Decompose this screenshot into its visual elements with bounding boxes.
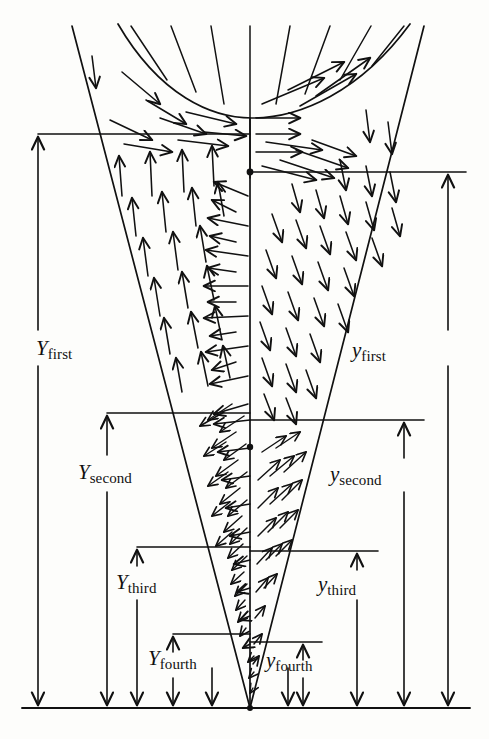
label-Y-second: Ysecond [78, 460, 132, 485]
field-lower-left [200, 404, 247, 636]
dimension-arrows-left [38, 137, 173, 705]
label-y-fourth-var: y [266, 648, 275, 672]
label-Y-third-var: Y [116, 570, 128, 594]
vector-field-figure: Yfirst Ysecond Ythird Yfourth yfirst yse… [0, 0, 489, 739]
field-left-inward [204, 182, 248, 414]
label-y-first: yfirst [352, 338, 386, 363]
label-Y-third-sub: third [128, 580, 157, 596]
label-y-second-sub: second [339, 472, 381, 488]
label-y-fourth-sub: fourth [275, 658, 312, 674]
label-y-third-var: y [318, 572, 327, 596]
label-y-first-var: y [352, 338, 361, 362]
field-lower-right [253, 432, 306, 664]
cone-right-edge [250, 26, 424, 708]
label-Y-third: Ythird [116, 570, 157, 595]
label-y-second-var: y [330, 462, 339, 486]
field-right-down [260, 110, 400, 424]
label-y-third-sub: third [327, 582, 356, 598]
label-Y-first-sub: first [48, 346, 73, 362]
label-Y-first-var: Y [36, 336, 48, 360]
field-upper-right [256, 58, 370, 180]
cone-edges [72, 26, 424, 708]
label-y-second: ysecond [330, 462, 382, 487]
label-y-first-sub: first [361, 348, 386, 364]
label-Y-fourth: Yfourth [148, 646, 197, 671]
lower-node [247, 444, 253, 450]
top-arc-group [118, 24, 410, 178]
label-Y-fourth-var: Y [148, 646, 160, 670]
field-upper-left [92, 56, 246, 152]
figure-canvas [0, 0, 489, 739]
label-Y-second-var: Y [78, 460, 90, 484]
apex-ticks [248, 656, 254, 693]
label-Y-first: Yfirst [36, 336, 72, 361]
label-y-fourth: yfourth [266, 648, 313, 673]
label-Y-second-sub: second [90, 470, 132, 486]
label-Y-fourth-sub: fourth [160, 656, 197, 672]
label-y-third: ythird [318, 572, 356, 597]
dimension-arrows-right [303, 175, 448, 705]
